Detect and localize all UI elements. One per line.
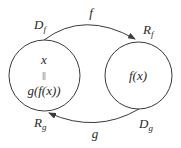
- arrow-f-label: f: [89, 5, 95, 20]
- arrow-f: f: [44, 5, 135, 40]
- left-top-label: Df: [33, 17, 47, 34]
- arrow-g-curve: [49, 109, 139, 123]
- right-top-label: Rf: [142, 22, 155, 39]
- arrow-f-curve: [44, 25, 135, 40]
- arrow-g: g: [49, 109, 139, 141]
- left-content-equals: ||: [42, 70, 46, 80]
- left-content-composition: g(f(x)): [27, 83, 60, 98]
- function-composition-diagram: Df x || g(f(x)) Rg Rf f(x) Dg f: [0, 0, 181, 148]
- right-set: Rf f(x) Dg: [105, 22, 172, 133]
- diagram-canvas: Df x || g(f(x)) Rg Rf f(x) Dg f: [0, 0, 181, 148]
- left-bottom-label: Rg: [33, 115, 47, 132]
- left-set: Df x || g(f(x)) Rg: [9, 17, 80, 132]
- arrow-g-label: g: [92, 126, 99, 141]
- left-content-x: x: [40, 52, 47, 67]
- right-bottom-label: Dg: [138, 116, 153, 133]
- right-content-fx: f(x): [129, 68, 147, 83]
